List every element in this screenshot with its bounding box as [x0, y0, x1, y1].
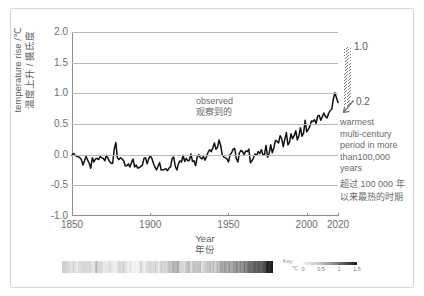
key-tick-label: 0.5 [317, 266, 325, 272]
y-axis-title: temperature rise /℃ 温度上升 / 摄氏度 [12, 0, 36, 140]
gridline [72, 63, 338, 64]
warmest-period-line-en: period in more [340, 140, 420, 152]
observed-label-en: observed [196, 96, 233, 107]
x-tick-label: 1950 [217, 219, 239, 230]
x-tick-mark [150, 213, 151, 216]
y-tick-label: -0.5 [51, 179, 68, 190]
warming-stripe [272, 261, 273, 273]
x-tick-labels: 18501900195020002020 [72, 219, 338, 233]
gridline [72, 93, 338, 94]
warmest-period-line-cn: 超过 100 000 年 [340, 178, 422, 191]
x-axis-title-en: Year [72, 233, 338, 244]
warmest-period-line-en: multi-century [340, 129, 420, 141]
hatched-bar-bottom-value: 0.2 [356, 96, 370, 107]
plot-area [72, 32, 338, 216]
x-tick-label: 1900 [139, 219, 161, 230]
chart-screenshot: temperature rise /℃ 温度上升 / 摄氏度 2.01.51.0… [0, 0, 424, 296]
x-tick-mark [338, 213, 339, 216]
warmest-period-text-en: warmestmulti-centuryperiod in morethan10… [340, 117, 420, 175]
gridline [72, 185, 338, 186]
x-axis-title-cn: 年份 [72, 244, 338, 255]
y-tick-label: 1.5 [54, 57, 68, 68]
warming-stripes [62, 261, 273, 273]
key-tick-label: 1.5 [353, 266, 361, 272]
key-tick-label: 1 [337, 266, 340, 272]
key-tick-label: 0 [301, 266, 304, 272]
y-axis-title-cn: 温度上升 / 摄氏度 [24, 0, 36, 140]
gridline [72, 155, 338, 156]
warmest-period-line-en: than100,000 [340, 152, 420, 164]
warmest-period-line-en: warmest [340, 117, 420, 129]
y-tick-label: 0.5 [54, 118, 68, 129]
observed-label-cn: 观察到的 [196, 107, 233, 118]
gridline [72, 124, 338, 125]
warmest-period-line-en: years [340, 163, 420, 175]
x-tick-label: 2000 [296, 219, 318, 230]
y-tick-label: 1.0 [54, 87, 68, 98]
y-axis-title-en: temperature rise /℃ [12, 0, 24, 140]
key-label: Key [283, 258, 292, 264]
warmest-period-text-cn: 超过 100 000 年以来最热的时期 [340, 178, 422, 203]
x-tick-mark [228, 213, 229, 216]
x-tick-mark [72, 213, 73, 216]
arrow-up-icon [338, 98, 356, 116]
x-axis-title: Year 年份 [72, 233, 338, 255]
key-colorbar [303, 262, 357, 265]
x-tick-mark [307, 213, 308, 216]
observed-annotation: observed 观察到的 [196, 96, 233, 118]
y-tick-labels: 2.01.51.00.50.0-0.5-1.0 [36, 32, 68, 216]
x-tick-label: 2020 [327, 219, 349, 230]
gridline [72, 32, 338, 33]
y-tick-label: 0.0 [54, 149, 68, 160]
x-tick-label: 1850 [61, 219, 83, 230]
y-tick-label: 2.0 [54, 26, 68, 37]
hatched-bar-top-value: 1.0 [354, 41, 368, 52]
key-tick-labels: 00.511.5 [298, 266, 362, 276]
warmest-period-line-cn: 以来最热的时期 [340, 191, 422, 204]
